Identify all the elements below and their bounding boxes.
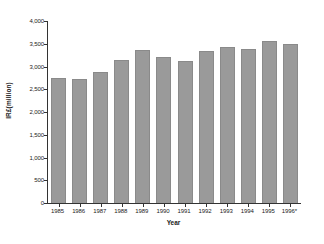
x-axis-title: Year [47,219,300,226]
y-tick-mark [44,112,48,113]
x-tick-label: 1996* [279,207,300,219]
plot-area [47,21,301,204]
y-tick-label: 2,500 [14,86,44,92]
bar [220,47,235,203]
bar [156,57,171,203]
y-tick-label: 1,000 [14,155,44,161]
x-tick-label: 1990 [152,207,173,219]
y-tick-mark [44,44,48,45]
bar [51,78,66,203]
bar [135,50,150,203]
x-tick-label: 1992 [195,207,216,219]
y-tick-mark [44,135,48,136]
x-tick-label: 1991 [174,207,195,219]
x-tick-label: 1985 [47,207,68,219]
y-tick-mark [44,89,48,90]
x-tick-label: 1989 [131,207,152,219]
bar-series [48,21,301,203]
y-axis-tick-labels: 05001,0001,5002,0002,5003,0003,5004,000 [14,21,44,203]
x-axis-tick-labels: 1985198619871988198919901991199219931994… [47,207,300,219]
y-tick-label: 3,500 [14,41,44,47]
x-tick-label: 1987 [89,207,110,219]
y-tick-label: 0 [14,200,44,206]
bar [283,44,298,203]
bar [199,51,214,203]
y-tick-mark [44,67,48,68]
y-tick-label: 500 [14,177,44,183]
y-tick-label: 3,000 [14,64,44,70]
y-tick-mark [44,158,48,159]
y-tick-mark [44,180,48,181]
y-tick-label: 4,000 [14,18,44,24]
bar [114,60,129,203]
x-tick-label: 1988 [110,207,131,219]
x-tick-label: 1994 [237,207,258,219]
bar [262,41,277,203]
bar [178,61,193,203]
y-tick-label: 1,500 [14,132,44,138]
x-tick-label: 1993 [216,207,237,219]
x-tick-label: 1986 [68,207,89,219]
x-tick-label: 1995 [258,207,279,219]
y-tick-label: 2,000 [14,109,44,115]
y-tick-mark [44,21,48,22]
y-tick-mark [44,203,48,204]
bar-chart-figure: IR£(million) 05001,0001,5002,0002,5003,0… [0,0,324,244]
y-axis-title-text: IR£(million) [5,82,12,119]
bar [241,49,256,203]
bar [93,72,108,203]
bar [72,79,87,203]
